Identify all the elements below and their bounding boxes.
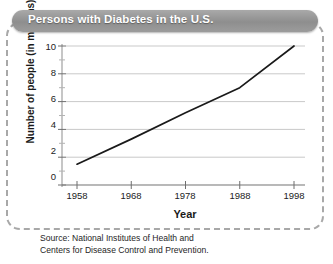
source-line-1: Source: National Institutes of Health an…: [40, 233, 194, 243]
figure-title-banner: Persons with Diabetes in the U.S.: [12, 10, 318, 32]
page-title: Persons with Diabetes in the U.S.: [28, 13, 213, 25]
source-line-2: Centers for Disease Control and Preventi…: [40, 245, 209, 255]
line-chart: Number of people (in millions) 10 8 6 4 …: [0, 0, 333, 264]
x-axis-label: Year: [60, 208, 310, 220]
figure-container: Persons with Diabetes in the U.S. Number…: [0, 0, 333, 264]
data-series-line: [77, 46, 294, 164]
source-caption: Source: National Institutes of Health an…: [40, 233, 209, 256]
plot-svg: [0, 0, 333, 264]
gridlines: [66, 46, 305, 185]
